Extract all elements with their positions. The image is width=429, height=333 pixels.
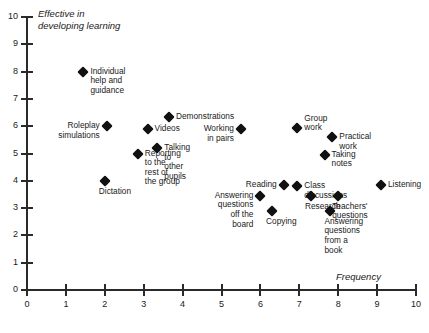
- y-tick-mark: [21, 43, 33, 45]
- x-tick-mark: [182, 284, 184, 296]
- data-point-label: Listening: [388, 180, 421, 190]
- data-point-label: Individual help and guidance: [90, 67, 125, 96]
- y-tick-label: 4: [0, 176, 18, 185]
- data-point-label: Copying: [266, 217, 296, 227]
- x-tick-label: 9: [367, 300, 387, 309]
- x-tick-mark: [143, 284, 145, 296]
- scatter-plot: Effective in developing learning Frequen…: [0, 0, 429, 333]
- x-tick-label: 8: [328, 300, 348, 309]
- data-point-label: Videos: [155, 124, 180, 134]
- y-tick-mark: [21, 98, 33, 100]
- diamond-marker-icon: [266, 205, 277, 216]
- diamond-marker-icon: [99, 175, 110, 186]
- y-tick-mark: [21, 207, 33, 209]
- y-tick-label: 8: [0, 67, 18, 76]
- diamond-marker-icon: [163, 111, 174, 122]
- x-tick-label: 10: [406, 300, 426, 309]
- y-tick-label: 2: [0, 230, 18, 239]
- x-tick-mark: [104, 284, 106, 296]
- y-tick-mark: [21, 234, 33, 236]
- y-tick-label: 10: [0, 12, 18, 21]
- diamond-marker-icon: [292, 181, 303, 192]
- y-tick-label: 1: [0, 258, 18, 267]
- y-tick-mark: [21, 16, 33, 18]
- x-tick-mark: [259, 284, 261, 296]
- diamond-marker-icon: [375, 179, 386, 190]
- diamond-marker-icon: [278, 179, 289, 190]
- y-tick-mark: [21, 180, 33, 182]
- y-tick-mark: [21, 153, 33, 155]
- diamond-marker-icon: [142, 123, 153, 134]
- x-tick-label: 4: [173, 300, 193, 309]
- x-tick-mark: [65, 284, 67, 296]
- data-point-label: Taking notes: [332, 150, 356, 169]
- data-point-label: Roleplay simulations: [58, 121, 100, 140]
- y-tick-label: 0: [0, 285, 18, 294]
- x-tick-label: 0: [17, 300, 37, 309]
- y-tick-mark: [21, 262, 33, 264]
- y-axis-title: Effective in developing learning: [38, 8, 120, 31]
- x-axis-title: Frequency: [336, 272, 381, 282]
- data-point-label: Reading: [246, 180, 277, 190]
- diamond-marker-icon: [101, 121, 112, 132]
- data-point-label: Working in pairs: [204, 124, 234, 143]
- x-tick-label: 3: [134, 300, 154, 309]
- x-tick-label: 7: [289, 300, 309, 309]
- y-tick-label: 3: [0, 203, 18, 212]
- diamond-marker-icon: [327, 131, 338, 142]
- x-tick-mark: [415, 284, 417, 296]
- y-tick-mark: [21, 125, 33, 127]
- x-tick-mark: [298, 284, 300, 296]
- diamond-marker-icon: [319, 149, 330, 160]
- diamond-marker-icon: [132, 148, 143, 159]
- x-tick-label: 6: [250, 300, 270, 309]
- x-tick-label: 1: [56, 300, 76, 309]
- diamond-marker-icon: [255, 190, 266, 201]
- data-point-label: Group work: [304, 114, 327, 133]
- diamond-marker-icon: [78, 66, 89, 77]
- y-tick-label: 9: [0, 39, 18, 48]
- data-point-label: Reporting to the rest of the group: [145, 149, 181, 187]
- y-tick-mark: [21, 71, 33, 73]
- data-point-label: Answering questions off the board: [215, 191, 254, 229]
- diamond-marker-icon: [235, 123, 246, 134]
- x-tick-mark: [221, 284, 223, 296]
- x-tick-mark: [337, 284, 339, 296]
- data-point-label: Dictation: [99, 187, 131, 197]
- y-tick-label: 6: [0, 121, 18, 130]
- data-point-label: Answering questions from a book: [324, 217, 363, 255]
- x-tick-label: 5: [212, 300, 232, 309]
- y-tick-label: 7: [0, 94, 18, 103]
- x-tick-mark: [376, 284, 378, 296]
- data-point-label: Demonstrations: [176, 112, 234, 122]
- y-tick-label: 5: [0, 149, 18, 158]
- diamond-marker-icon: [292, 122, 303, 133]
- x-tick-mark: [26, 284, 28, 296]
- x-tick-label: 2: [95, 300, 115, 309]
